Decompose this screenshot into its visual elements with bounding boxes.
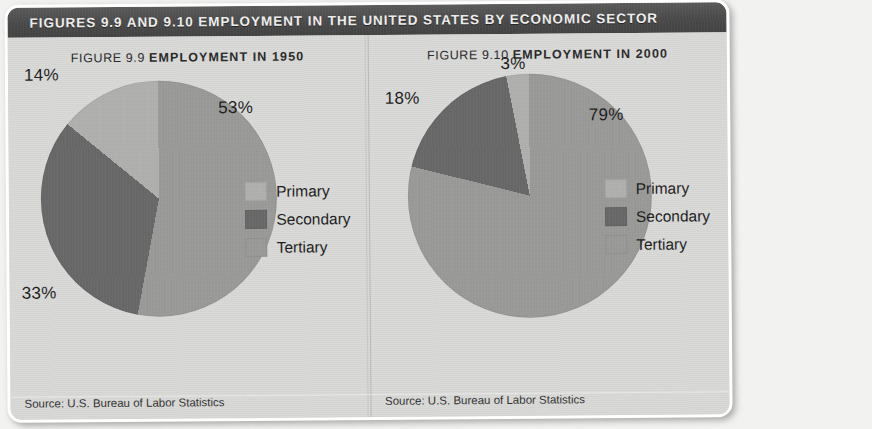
pie-label-secondary-2000: 18% [385, 89, 420, 109]
legend-1950: Primary Secondary Tertiary [245, 181, 351, 257]
legend-label-tertiary: Tertiary [636, 235, 687, 253]
legend-item-primary-2000: Primary [605, 178, 710, 198]
legend-2000: Primary Secondary Tertiary [605, 178, 711, 254]
figure-panels: FIGURE 9.9 EMPLOYMENT IN 1950 14% 53% 33… [8, 32, 730, 420]
pie-plot-2000: 3% 79% 18% Primary Secondary Tertiary [378, 60, 719, 363]
chart-title-text-1950: EMPLOYMENT IN 1950 [149, 50, 304, 65]
legend-item-tertiary-1950: Tertiary [246, 237, 351, 257]
legend-swatch-primary-icon [605, 179, 627, 198]
pie-plot-1950: 14% 53% 33% Primary Secondary Tertiary [18, 63, 360, 366]
legend-label-primary: Primary [276, 182, 330, 200]
legend-label-tertiary: Tertiary [277, 238, 328, 256]
panel-figure-9-10: FIGURE 9.10 EMPLOYMENT IN 2000 3% 79% 18… [367, 32, 729, 417]
pie-label-tertiary-2000: 79% [589, 105, 624, 125]
panel-figure-9-9: FIGURE 9.9 EMPLOYMENT IN 1950 14% 53% 33… [8, 35, 370, 420]
legend-item-primary-1950: Primary [245, 181, 350, 201]
legend-label-secondary: Secondary [636, 207, 710, 226]
legend-item-secondary-1950: Secondary [245, 209, 350, 229]
chart-title-text-2000: EMPLOYMENT IN 2000 [513, 47, 668, 62]
legend-swatch-primary-icon [245, 182, 267, 201]
pie-label-tertiary-1950: 53% [218, 98, 253, 118]
pie-label-primary-1950: 14% [24, 65, 59, 85]
legend-item-secondary-2000: Secondary [605, 206, 710, 226]
legend-swatch-secondary-icon [605, 207, 627, 226]
source-note-2000: Source: U.S. Bureau of Labor Statistics [385, 393, 585, 407]
figure-card: FIGURES 9.9 AND 9.10 EMPLOYMENT IN THE U… [4, 0, 732, 423]
source-note-1950: Source: U.S. Bureau of Labor Statistics [24, 396, 224, 410]
chart-figure-number-2000: FIGURE 9.10 [427, 48, 509, 63]
pie-label-primary-2000: 3% [500, 54, 525, 74]
figure-title: FIGURES 9.9 AND 9.10 EMPLOYMENT IN THE U… [7, 10, 658, 30]
legend-swatch-tertiary-icon [246, 238, 268, 257]
legend-swatch-secondary-icon [245, 210, 267, 229]
legend-swatch-tertiary-icon [605, 235, 627, 254]
legend-label-secondary: Secondary [276, 210, 350, 229]
pie-label-secondary-1950: 33% [22, 283, 57, 303]
chart-figure-number-1950: FIGURE 9.9 [71, 51, 145, 66]
legend-item-tertiary-2000: Tertiary [605, 234, 710, 254]
legend-label-primary: Primary [636, 179, 690, 197]
